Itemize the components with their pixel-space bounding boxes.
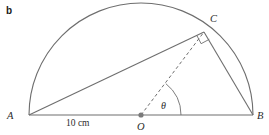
label-point-o: O: [137, 122, 145, 133]
angle-arc-theta: [166, 84, 181, 115]
label-point-a: A: [7, 111, 13, 122]
geometry-figure: b A B C O θ 10 cm: [0, 0, 269, 135]
segment-oc-radius-dashed: [141, 32, 204, 115]
right-angle-marker-c: [197, 35, 210, 43]
label-point-b: B: [257, 111, 263, 122]
point-marker-o: [138, 112, 143, 117]
figure-canvas: [0, 0, 269, 135]
label-point-c: C: [210, 14, 217, 25]
label-dimension-ab: 10 cm: [66, 119, 89, 129]
label-angle-theta: θ: [161, 101, 166, 111]
part-label-b: b: [6, 6, 12, 16]
segment-ac: [29, 32, 204, 115]
